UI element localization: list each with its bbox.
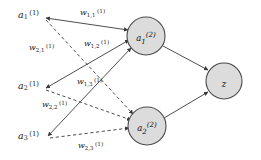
edge-a3-to-h1 bbox=[48, 48, 131, 136]
weight-label-w11: w1,1(1) bbox=[80, 9, 105, 18]
edge-h2-to-z bbox=[164, 92, 208, 118]
weight-label-w22: w2,2(1) bbox=[42, 101, 67, 110]
input-label-a2: a2(1) bbox=[18, 81, 39, 92]
hidden-node-a1-2[interactable] bbox=[127, 17, 165, 55]
weight-label-w13: w1,3(1) bbox=[77, 78, 102, 87]
weight-label-w12: w1,2(1) bbox=[84, 40, 109, 49]
input-label-a1: a1(1) bbox=[18, 10, 39, 21]
edge-a1-to-h1 bbox=[46, 18, 128, 30]
output-node-z[interactable] bbox=[206, 63, 242, 99]
input-label-a3: a3(1) bbox=[18, 131, 39, 142]
weight-label-w23: w2,3(1) bbox=[78, 142, 103, 151]
weight-label-w21: w2,1(1) bbox=[29, 44, 54, 53]
edge-a3-to-h2 bbox=[50, 128, 129, 138]
edge-h1-to-z bbox=[163, 46, 208, 70]
hidden-node-a2-2[interactable] bbox=[128, 107, 166, 145]
neural-network-diagram: a1(1) a2(1) a3(1) w1,1(1) w1,2(1) w1,3(1… bbox=[0, 0, 261, 160]
network-edges-canvas bbox=[0, 0, 261, 160]
